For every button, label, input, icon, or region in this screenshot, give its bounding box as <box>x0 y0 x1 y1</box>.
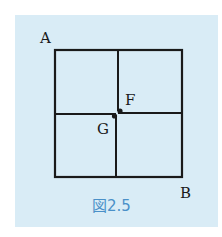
point-g-dot <box>112 113 117 118</box>
label-b: B <box>180 184 191 202</box>
label-a: A <box>39 29 51 47</box>
figure-caption: 図2.5 <box>92 197 131 215</box>
label-f: F <box>125 91 135 109</box>
grid-diagram: A F G B 図2.5 <box>0 0 222 237</box>
point-f-dot <box>117 108 122 113</box>
label-g: G <box>97 120 109 138</box>
